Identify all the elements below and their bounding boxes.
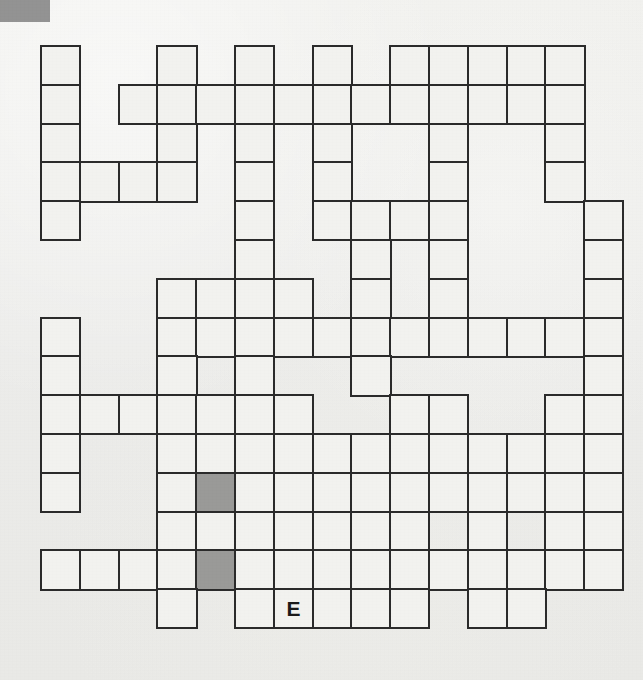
crossword-cell[interactable] xyxy=(156,123,197,164)
crossword-cell[interactable] xyxy=(118,394,159,435)
crossword-cell[interactable] xyxy=(234,123,275,164)
crossword-cell[interactable] xyxy=(234,317,275,358)
crossword-cell[interactable] xyxy=(506,45,547,86)
crossword-cell[interactable] xyxy=(350,433,391,474)
crossword-cell[interactable] xyxy=(234,511,275,552)
crossword-cell[interactable] xyxy=(273,549,314,590)
crossword-cell[interactable] xyxy=(195,84,236,125)
crossword-cell[interactable] xyxy=(467,549,508,590)
crossword-cell[interactable] xyxy=(273,433,314,474)
crossword-cell[interactable] xyxy=(234,200,275,241)
crossword-cell[interactable] xyxy=(467,588,508,629)
crossword-cell[interactable] xyxy=(234,549,275,590)
crossword-cell[interactable] xyxy=(544,45,585,86)
crossword-cell[interactable] xyxy=(273,278,314,319)
crossword-cell[interactable] xyxy=(40,355,81,396)
crossword-cell[interactable] xyxy=(544,317,585,358)
crossword-cell[interactable] xyxy=(40,433,81,474)
crossword-grid[interactable]: E xyxy=(0,0,643,680)
crossword-cell[interactable] xyxy=(79,549,120,590)
crossword-cell[interactable] xyxy=(156,45,197,86)
crossword-cell[interactable] xyxy=(195,394,236,435)
crossword-cell[interactable] xyxy=(40,317,81,358)
crossword-cell[interactable] xyxy=(389,84,430,125)
crossword-cell[interactable] xyxy=(389,317,430,358)
crossword-cell[interactable] xyxy=(40,45,81,86)
crossword-cell-shaded[interactable] xyxy=(195,472,236,513)
crossword-cell[interactable] xyxy=(350,278,391,319)
crossword-cell[interactable] xyxy=(428,317,469,358)
crossword-cell[interactable] xyxy=(428,239,469,280)
crossword-cell[interactable] xyxy=(273,394,314,435)
crossword-cell[interactable] xyxy=(350,84,391,125)
crossword-cell[interactable] xyxy=(234,84,275,125)
crossword-cell[interactable] xyxy=(195,317,236,358)
crossword-cell[interactable] xyxy=(40,394,81,435)
crossword-cell[interactable] xyxy=(312,84,353,125)
crossword-cell[interactable] xyxy=(195,278,236,319)
crossword-cell[interactable] xyxy=(273,317,314,358)
crossword-cell[interactable] xyxy=(312,511,353,552)
crossword-cell[interactable] xyxy=(350,355,391,396)
crossword-cell[interactable] xyxy=(583,278,624,319)
crossword-cell[interactable] xyxy=(583,317,624,358)
crossword-cell[interactable] xyxy=(195,433,236,474)
crossword-cell[interactable] xyxy=(234,278,275,319)
crossword-cell[interactable] xyxy=(40,123,81,164)
crossword-cell[interactable] xyxy=(467,317,508,358)
crossword-cell[interactable] xyxy=(583,472,624,513)
crossword-cell[interactable] xyxy=(506,84,547,125)
crossword-cell[interactable] xyxy=(156,84,197,125)
crossword-cell[interactable] xyxy=(428,394,469,435)
crossword-cell[interactable] xyxy=(195,511,236,552)
crossword-cell[interactable] xyxy=(389,45,430,86)
crossword-cell[interactable] xyxy=(118,549,159,590)
crossword-cell[interactable] xyxy=(234,588,275,629)
crossword-cell[interactable] xyxy=(156,433,197,474)
crossword-cell[interactable] xyxy=(234,355,275,396)
crossword-cell[interactable]: E xyxy=(273,588,314,629)
crossword-cell[interactable] xyxy=(544,472,585,513)
crossword-cell[interactable] xyxy=(583,239,624,280)
crossword-cell[interactable] xyxy=(389,394,430,435)
crossword-cell[interactable] xyxy=(350,239,391,280)
crossword-cell[interactable] xyxy=(428,200,469,241)
crossword-cell[interactable] xyxy=(156,278,197,319)
crossword-cell[interactable] xyxy=(156,472,197,513)
crossword-cell[interactable] xyxy=(118,84,159,125)
crossword-cell[interactable] xyxy=(389,549,430,590)
crossword-cell[interactable] xyxy=(389,200,430,241)
crossword-cell[interactable] xyxy=(428,45,469,86)
crossword-cell[interactable] xyxy=(234,239,275,280)
crossword-cell[interactable] xyxy=(312,123,353,164)
crossword-cell[interactable] xyxy=(467,472,508,513)
crossword-cell[interactable] xyxy=(156,317,197,358)
crossword-cell[interactable] xyxy=(467,511,508,552)
crossword-cell[interactable] xyxy=(428,472,469,513)
crossword-cell[interactable] xyxy=(312,588,353,629)
crossword-cell[interactable] xyxy=(428,278,469,319)
crossword-cell[interactable] xyxy=(389,472,430,513)
crossword-cell[interactable] xyxy=(312,472,353,513)
crossword-cell[interactable] xyxy=(544,549,585,590)
crossword-cell[interactable] xyxy=(467,45,508,86)
crossword-cell[interactable] xyxy=(234,161,275,202)
crossword-cell[interactable] xyxy=(428,433,469,474)
crossword-cell[interactable] xyxy=(234,394,275,435)
crossword-cell[interactable] xyxy=(428,161,469,202)
crossword-cell[interactable] xyxy=(312,45,353,86)
crossword-cell[interactable] xyxy=(583,549,624,590)
crossword-cell[interactable] xyxy=(156,161,197,202)
crossword-cell[interactable] xyxy=(506,433,547,474)
crossword-cell[interactable] xyxy=(506,472,547,513)
crossword-cell[interactable] xyxy=(350,588,391,629)
crossword-cell[interactable] xyxy=(79,161,120,202)
crossword-cell[interactable] xyxy=(234,472,275,513)
crossword-cell[interactable] xyxy=(118,161,159,202)
crossword-cell[interactable] xyxy=(273,84,314,125)
crossword-cell[interactable] xyxy=(583,394,624,435)
crossword-cell[interactable] xyxy=(40,200,81,241)
crossword-cell[interactable] xyxy=(273,472,314,513)
crossword-cell[interactable] xyxy=(428,123,469,164)
crossword-cell[interactable] xyxy=(273,511,314,552)
